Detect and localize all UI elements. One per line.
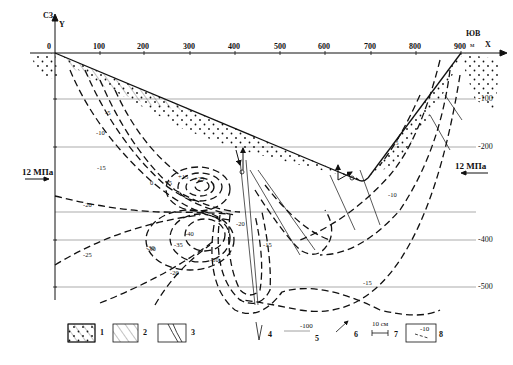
isoline-value: -20 (170, 270, 179, 277)
stress-label-right: 12 МПа (455, 162, 486, 171)
geological-section-figure: СЗ Y ЮВ X м 0 100 200 300 400 500 600 70… (0, 0, 513, 365)
fault-lines (240, 95, 462, 305)
isoline-value: -15 (97, 165, 106, 172)
x-tick-300: 300 (183, 43, 195, 51)
x-tick-0: 0 (47, 43, 51, 51)
legend-label-3: 3 (191, 329, 195, 337)
x-tick-900: 900 (454, 43, 466, 51)
isoline-value: -5 (105, 110, 110, 117)
isoline-value: -5 (393, 140, 398, 147)
legend-sample-7: 10 см (372, 321, 388, 328)
x-tick-600: 600 (318, 43, 330, 51)
depth-tick-200: -200 (478, 143, 493, 151)
isoline-value: -20 (236, 221, 245, 228)
legend-label-8: 8 (439, 331, 443, 339)
legend-label-1: 1 (100, 329, 104, 337)
legend-label-4: 4 (268, 331, 272, 339)
isoline-value: -15 (263, 242, 272, 249)
nw-direction-label: СЗ (43, 12, 53, 20)
unit-label: м (470, 42, 474, 49)
left-slope-fill (30, 53, 355, 178)
stress-arrows (25, 171, 488, 181)
isoline-value: -40 (185, 231, 194, 238)
x-tick-800: 800 (409, 43, 421, 51)
isoline-value: -20 (83, 202, 92, 209)
x-tick-700: 700 (364, 43, 376, 51)
stress-label-left: 12 МПа (22, 168, 53, 177)
legend-label-6: 6 (354, 331, 358, 339)
section-drawing (0, 0, 513, 365)
isoline-value: -10 (210, 257, 219, 264)
terrain-surface (55, 53, 461, 181)
isoline-value: 0 (150, 180, 153, 187)
se-direction-label: ЮВ (466, 30, 480, 38)
x-tick-400: 400 (228, 43, 240, 51)
legend-sample-5: -100 (300, 323, 313, 330)
depth-tick-100: -100 (478, 95, 493, 103)
depth-tick-400: -400 (478, 236, 493, 244)
x-axis-label: X (485, 41, 491, 49)
isoline-value: -15 (363, 280, 372, 287)
x-tick-500: 500 (274, 43, 286, 51)
isoline-value: -10 (388, 192, 397, 199)
y-axis-label: Y (59, 21, 65, 29)
right-slope-fill (370, 53, 500, 175)
legend-label-5: 5 (315, 335, 319, 343)
isoline-value: -25 (83, 252, 92, 259)
isoline-value: -10 (96, 130, 105, 137)
isoline-value: +25 (194, 176, 204, 183)
x-tick-200: 200 (137, 43, 149, 51)
legend-label-7: 7 (394, 331, 398, 339)
isoline-value: +5 (165, 180, 172, 187)
isolines (55, 60, 460, 315)
isoline-value: -30 (146, 245, 155, 252)
x-tick-100: 100 (93, 43, 105, 51)
legend-label-2: 2 (143, 329, 147, 337)
isoline-value: +15 (178, 174, 188, 181)
depth-tick-500: -500 (478, 283, 493, 291)
isoline-value: -35 (174, 242, 183, 249)
legend-sample-8: -10 (420, 326, 429, 333)
